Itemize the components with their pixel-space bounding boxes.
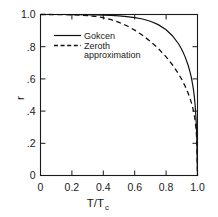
y-axis-tick-labels: 0.2.4.6.81.0 bbox=[21, 8, 36, 181]
line-chart: 00.20.40.60.81.0 0.2.4.6.81.0 Gokcen Zer… bbox=[0, 0, 218, 217]
x-tick-label-5: 1.0 bbox=[190, 181, 205, 193]
x-tick-label-2: 0.4 bbox=[96, 181, 111, 193]
y-axis-title: r bbox=[14, 96, 26, 100]
y-tick-label-2: .4 bbox=[27, 105, 36, 117]
x-axis-title: T/T bbox=[87, 197, 104, 209]
x-axis-title-subscript: c bbox=[105, 203, 109, 212]
x-axis-tick-labels: 00.20.40.60.81.0 bbox=[38, 181, 205, 193]
x-tick-label-1: 0.2 bbox=[65, 181, 80, 193]
legend-label-gokcen: Gokcen bbox=[84, 31, 115, 41]
y-tick-label-4: .8 bbox=[27, 41, 36, 53]
x-axis-ticks-bottom bbox=[72, 171, 166, 176]
y-tick-label-3: .6 bbox=[27, 73, 36, 85]
x-tick-label-4: 0.8 bbox=[159, 181, 174, 193]
x-tick-label-3: 0.6 bbox=[127, 181, 142, 193]
series-line-gokcen bbox=[41, 15, 198, 176]
y-axis-ticks-left bbox=[41, 47, 46, 144]
legend: Gokcen Zeroth approximation bbox=[54, 31, 141, 61]
x-tick-label-0: 0 bbox=[38, 181, 44, 193]
y-tick-label-5: 1.0 bbox=[21, 8, 36, 20]
y-tick-label-1: .2 bbox=[27, 137, 36, 149]
legend-label-zeroth-line2: approximation bbox=[84, 50, 141, 60]
figure-container: 00.20.40.60.81.0 0.2.4.6.81.0 Gokcen Zer… bbox=[0, 0, 218, 217]
legend-label-zeroth: Zeroth bbox=[84, 41, 110, 51]
y-tick-label-0: 0 bbox=[30, 169, 36, 181]
